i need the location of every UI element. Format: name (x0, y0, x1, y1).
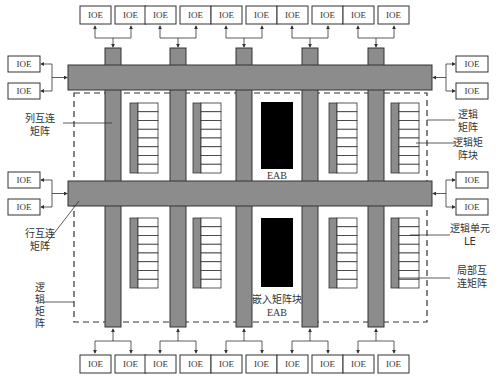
logic-element-cell (138, 218, 158, 227)
logic-element-cell (138, 227, 158, 236)
ioe-label: IOE (351, 359, 366, 369)
eab-label-bottom-1: 嵌入矩阵块 (252, 293, 302, 305)
logic-element-cell (201, 129, 221, 138)
ioe-label: IOE (17, 175, 32, 185)
ioe-label: IOE (386, 359, 401, 369)
ioe-label: IOE (17, 202, 32, 212)
callout-local-interconnect: 局部互 (457, 264, 487, 276)
ioe-label: IOE (351, 10, 366, 20)
logic-element-cell (337, 112, 357, 121)
callout-logic-array-block: 逻辑矩 (453, 136, 483, 148)
callout-local-interconnect: 连矩阵 (457, 277, 487, 289)
ioe-label: IOE (153, 10, 168, 20)
callout-logic-array-block: 阵块 (458, 149, 478, 161)
logic-element-cell (201, 236, 221, 245)
ioe-label: IOE (285, 359, 300, 369)
logic-element-cell (201, 271, 221, 280)
logic-element-cell (337, 236, 357, 245)
ioe-label: IOE (219, 359, 234, 369)
ioe-label: IOE (123, 10, 138, 20)
logic-element-cell (399, 138, 419, 147)
callout-column-interconnect: 矩阵 (30, 125, 50, 137)
logic-element-cell (138, 244, 158, 253)
row-interconnect-bar (68, 65, 432, 90)
local-interconnect-rail (130, 218, 138, 288)
logic-element-cell (337, 271, 357, 280)
logic-element-cell (337, 129, 357, 138)
ioe-label: IOE (465, 202, 480, 212)
logic-element-cell (138, 236, 158, 245)
logic-element-cell (337, 227, 357, 236)
logic-element-cell (138, 279, 158, 288)
logic-element-cell (399, 121, 419, 130)
logic-element-cell (138, 271, 158, 280)
logic-element-cell (201, 147, 221, 156)
ioe-label: IOE (153, 359, 168, 369)
logic-element-cell (399, 112, 419, 121)
logic-element-cell (138, 262, 158, 271)
logic-element-cell (138, 103, 158, 112)
callout-logic-element: LE (464, 236, 476, 247)
callout-logic-array-left: 辑 (35, 293, 45, 305)
logic-element-cell (201, 112, 221, 121)
logic-element-cell (337, 164, 357, 173)
logic-element-cell (201, 121, 221, 130)
logic-element-cell (337, 253, 357, 262)
ioe-label: IOE (465, 59, 480, 69)
local-interconnect-rail (193, 103, 201, 173)
logic-element-cell (337, 156, 357, 165)
logic-element-cell (337, 262, 357, 271)
local-interconnect-rail (193, 218, 201, 288)
ioe-label: IOE (17, 59, 32, 69)
logic-element-cell (138, 112, 158, 121)
logic-element-cell (337, 121, 357, 130)
logic-element-cell (201, 218, 221, 227)
logic-element-cell (399, 253, 419, 262)
ioe-label: IOE (254, 10, 269, 20)
logic-element-cell (138, 129, 158, 138)
logic-element-cell (138, 164, 158, 173)
callout-logic-array-left: 矩 (35, 305, 45, 317)
ioe-label: IOE (254, 359, 269, 369)
fpga-architecture-diagram: EAB嵌入矩阵块EAB IOEIOEIOEIOEIOEIOEIOEIOEIOEI… (0, 0, 504, 384)
logic-element-cell (201, 164, 221, 173)
logic-element-cell (399, 227, 419, 236)
local-interconnect-rail (329, 218, 337, 288)
callout-column-interconnect: 列互连 (25, 112, 55, 124)
logic-element-cell (201, 227, 221, 236)
logic-element-cell (201, 156, 221, 165)
ioe-label: IOE (17, 86, 32, 96)
row-interconnect-bar (68, 181, 432, 206)
ioe-label: IOE (88, 359, 103, 369)
embedded-array-blocks: EAB嵌入矩阵块EAB (252, 102, 302, 318)
logic-element-cell (138, 147, 158, 156)
logic-element-cell (399, 236, 419, 245)
logic-element-cell (399, 103, 419, 112)
logic-element-cell (337, 138, 357, 147)
ioe-label: IOE (123, 359, 138, 369)
logic-element-cell (201, 244, 221, 253)
logic-element-cell (399, 147, 419, 156)
callout-logic-array-right: 逻辑 (458, 108, 478, 120)
logic-element-cell (337, 279, 357, 288)
logic-element-cell (337, 147, 357, 156)
logic-element-cell (138, 253, 158, 262)
logic-element-cell (138, 156, 158, 165)
callout-logic-array-left: 逻 (35, 282, 45, 293)
callout-logic-element: 逻辑单元 (450, 222, 490, 234)
ioe-label: IOE (386, 10, 401, 20)
logic-element-cell (399, 156, 419, 165)
logic-element-cell (201, 262, 221, 271)
ioe-label: IOE (188, 359, 203, 369)
logic-element-cell (201, 138, 221, 147)
ioe-label: IOE (88, 10, 103, 20)
logic-element-cell (138, 138, 158, 147)
eab-block-top (261, 102, 293, 169)
ioe-label: IOE (219, 10, 234, 20)
logic-element-cell (138, 121, 158, 130)
logic-element-cell (399, 218, 419, 227)
logic-element-cell (337, 103, 357, 112)
callout-logic-array-left: 阵 (35, 317, 45, 329)
logic-element-cell (337, 218, 357, 227)
eab-label-top: EAB (267, 170, 287, 181)
